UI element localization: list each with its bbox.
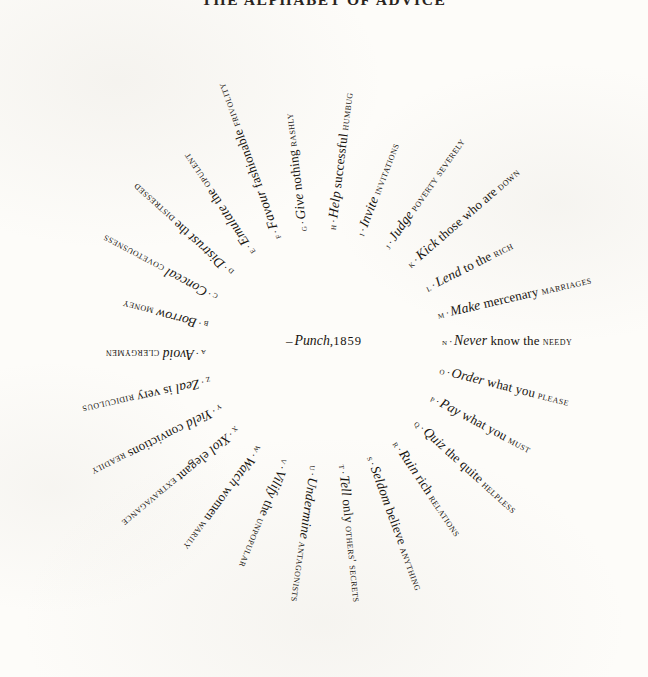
entry-connector: believe [382, 502, 410, 547]
page-title: THE ALPHABET OF ADVICE [0, 0, 648, 9]
entry-connector: convictions [126, 419, 191, 462]
entry-verb: Invite [356, 194, 381, 229]
entry-connector: know the [487, 333, 540, 348]
entry-object: MUST [503, 432, 533, 455]
entry-object: CLERGYMEN [105, 348, 162, 360]
entry-object: ANTAGONISTS [289, 538, 310, 603]
entry-object: EXTRAVAGANCE [120, 474, 183, 530]
entry-object: RASHLY [283, 112, 299, 150]
entry-object: READILY [90, 449, 132, 478]
entry-separator-dot: · [194, 348, 201, 359]
entry-object: RIDICULOUS [81, 392, 138, 416]
entry-object: WARILY [181, 516, 212, 552]
entry-connector: fashionable [230, 127, 266, 193]
entry-connector: what you [457, 405, 511, 443]
entry-connector: nothing [285, 149, 305, 195]
advice-entry[interactable]: Y·Yield convictions READILY [90, 401, 225, 479]
entry-object: OTHERS' SECRETS [343, 522, 363, 603]
entry-connector: is very [136, 382, 178, 405]
entry-verb: Give [290, 193, 308, 221]
advice-entry[interactable]: N·Never know the NEEDY [442, 334, 572, 348]
entry-object: NEEDY [540, 335, 573, 347]
entry-connector: what you [482, 373, 537, 400]
advice-entry[interactable]: A·Avoid CLERGYMEN [105, 348, 206, 362]
entry-verb: Favour [252, 188, 280, 231]
entry-object: COVETOUSNESS [101, 233, 169, 277]
advice-entry[interactable]: X·Xtol elegant EXTRAVAGANCE [119, 424, 242, 530]
entry-connector: mercenary [478, 284, 539, 312]
entry-verb: Avoid [162, 347, 193, 362]
entry-verb: Make [449, 297, 482, 318]
entry-verb: Seldom [368, 464, 396, 507]
entry-verb: Conceal [162, 265, 210, 300]
entry-verb: Undermine [297, 477, 320, 541]
entry-object: RICH [488, 239, 515, 261]
credit-dash: – [286, 333, 295, 348]
advice-entry[interactable]: M·Make mercenary MARRIAGES [436, 273, 593, 322]
page-canvas: THE ALPHABET OF ADVICE A·Avoid CLERGYMEN… [0, 0, 648, 677]
entry-verb: Help [325, 190, 343, 218]
entry-letter: H [327, 224, 339, 231]
entry-object: INVITATIONS [369, 141, 401, 199]
entry-verb: Borrow [154, 306, 198, 331]
entry-verb: Distrust [184, 231, 227, 272]
entry-connector: women [201, 482, 238, 525]
entry-object: HELPLESS [478, 476, 520, 515]
entry-verb: Zeal [174, 376, 201, 396]
entry-connector: elegant [174, 446, 216, 484]
advice-entry[interactable]: G·Give nothing RASHLY [282, 112, 310, 232]
entry-connector: only [339, 495, 357, 524]
advice-entry[interactable]: B·Borrow MONEY [121, 298, 210, 332]
entry-connector: those who are [432, 184, 500, 246]
entry-object: MARRIAGES [537, 273, 593, 297]
entry-object: OPULENT [181, 151, 215, 193]
entry-object: MONEY [121, 299, 158, 319]
entry-connector: the quite [440, 441, 487, 486]
entry-letter: N [442, 336, 448, 347]
entry-connector: successful [329, 132, 351, 192]
entry-object: PLEASE [534, 388, 571, 408]
entry-object: DOWN [492, 166, 522, 195]
entry-object: DISTRESSED [130, 181, 179, 227]
entry-verb: Never [454, 333, 487, 348]
entry-object: POVERTY severely [406, 136, 467, 216]
credit-year: 1859 [333, 334, 362, 348]
entry-object: ANYTHING [397, 542, 425, 592]
entry-verb: Order [450, 365, 486, 388]
entry-object: UNPOPULAR [237, 514, 269, 570]
advice-entry[interactable]: T·Tell only OTHERS' SECRETS [336, 464, 364, 603]
source-credit: –Punch,1859 [286, 333, 362, 349]
entry-object: RELATIONS [425, 490, 463, 539]
advice-entry[interactable]: H·Help successful HUMBUG [325, 91, 355, 230]
entry-verb: Tell [337, 475, 354, 497]
entry-object: FRIVOLITY [215, 81, 243, 132]
entry-letter: A [200, 348, 206, 359]
entry-letter: G [297, 225, 309, 232]
entry-verb: Emulate [214, 202, 252, 249]
credit-source: Punch [295, 333, 330, 348]
advice-entry[interactable]: U·Undermine ANTAGONISTS [288, 465, 321, 603]
advice-entry[interactable]: Z·Zeal is very RIDICULOUS [81, 374, 212, 417]
entry-object: HUMBUG [338, 92, 355, 135]
